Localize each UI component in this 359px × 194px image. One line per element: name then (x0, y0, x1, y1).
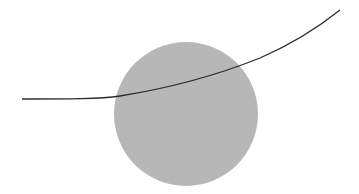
diagram-canvas (0, 0, 359, 194)
gray-circle (114, 42, 258, 186)
